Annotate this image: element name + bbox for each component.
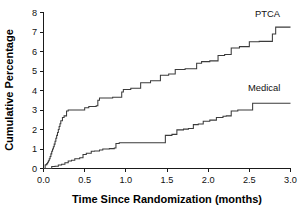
x-axis-tick-label: 1.0 <box>119 175 132 185</box>
y-axis-tick-label: 3 <box>32 105 37 115</box>
x-axis-tick-label: 0.5 <box>78 175 91 185</box>
series-label-group: PTCAMedical <box>248 8 281 93</box>
y-axis-tick-group: 012345678 <box>32 8 44 174</box>
series-group <box>44 27 291 168</box>
series-line-medical <box>44 103 291 168</box>
x-axis-tick-label: 3.0 <box>284 175 297 185</box>
y-axis-tick-label: 0 <box>32 164 37 174</box>
series-label-medical: Medical <box>248 82 280 93</box>
x-axis-tick-label: 1.5 <box>161 175 174 185</box>
series-label-ptca: PTCA <box>255 8 281 19</box>
cumulative-percentage-step-chart: 012345678 0.00.51.01.52.02.53.0 PTCAMedi… <box>0 0 299 210</box>
y-axis-tick-label: 2 <box>32 125 37 135</box>
chart-figure: 012345678 0.00.51.01.52.02.53.0 PTCAMedi… <box>0 0 299 210</box>
x-axis-tick-label: 2.0 <box>202 175 215 185</box>
y-axis-title: Cumulative Percentage <box>3 29 15 151</box>
y-axis-tick-label: 4 <box>32 86 37 96</box>
y-axis-tick-label: 1 <box>32 144 37 154</box>
x-axis-tick-label: 0.0 <box>37 175 50 185</box>
series-line-ptca <box>44 27 291 168</box>
x-axis-title: Time Since Randomization (months) <box>72 193 262 205</box>
x-axis-tick-label: 2.5 <box>243 175 256 185</box>
y-axis-tick-label: 7 <box>32 27 37 37</box>
y-axis-tick-label: 8 <box>32 8 37 18</box>
y-axis-tick-label: 5 <box>32 66 37 76</box>
y-axis-tick-label: 6 <box>32 47 37 57</box>
x-axis-tick-group: 0.00.51.01.52.02.53.0 <box>37 169 297 185</box>
plot-area: 012345678 0.00.51.01.52.02.53.0 PTCAMedi… <box>32 8 297 185</box>
